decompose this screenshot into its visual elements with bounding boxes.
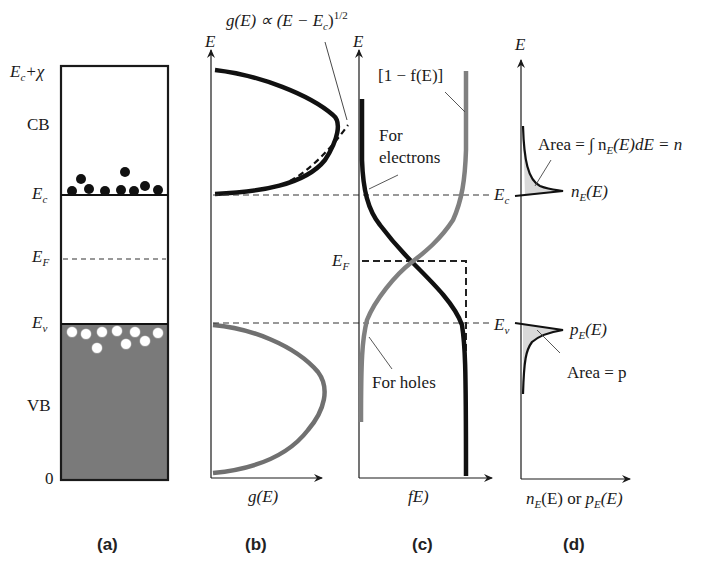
cb-dos-curve	[215, 70, 338, 194]
ef-label: EF	[32, 248, 49, 268]
ev-label-c: Ev	[494, 316, 509, 336]
band-diagram-panel	[61, 66, 168, 480]
dos-formula-annotation: g(E) ∝ (E − Ec)1/2	[226, 10, 348, 32]
one-minus-f-label: [1 − f(E)]	[378, 67, 443, 84]
caption-c: (c)	[412, 535, 433, 555]
caption-b: (b)	[245, 535, 267, 555]
valence-band-fill	[61, 324, 168, 480]
cb-label: CB	[27, 116, 50, 133]
ec-plus-chi-label: Ec+χ	[10, 63, 44, 83]
ev-label: Ev	[32, 314, 47, 334]
ec-label-c: Ec	[494, 186, 509, 206]
holes-label: For holes	[372, 374, 436, 391]
ne-label: nE(E)	[571, 183, 608, 203]
annotation-pointer	[325, 42, 347, 120]
caption-a: (a)	[97, 535, 118, 555]
one-minus-f-holes-curve	[361, 71, 466, 422]
zero-energy-label: 0	[45, 470, 54, 487]
zero-kelvin-step	[362, 261, 466, 476]
electrons	[67, 167, 163, 196]
one-minus-f-pointer	[445, 92, 465, 112]
density-of-states-panel	[211, 42, 348, 478]
fermi-dirac-panel	[359, 50, 492, 478]
ec-label: Ec	[32, 185, 47, 205]
ef-label-c: EF	[332, 252, 349, 272]
pe-label: pE(E)	[570, 321, 607, 341]
electrons-label-line1: For	[379, 127, 403, 144]
area-p-label: Area = p	[567, 364, 627, 381]
area-n-label: Area = ∫ nE(E)dE = n	[538, 136, 682, 156]
energy-axis-label-c: E	[353, 33, 363, 50]
carrier-concentration-panel	[515, 60, 630, 479]
dos-axis-label: g(E)	[248, 488, 278, 505]
fermi-axis-label: fE)	[408, 488, 429, 505]
electrons-pointer	[369, 175, 398, 189]
n-area-pointer	[535, 160, 551, 186]
electrons-label-line2: electrons	[379, 149, 440, 166]
vb-label: VB	[27, 397, 51, 414]
holes-pointer	[369, 337, 392, 369]
caption-d: (d)	[563, 535, 585, 555]
energy-axis-label-b: E	[205, 33, 215, 50]
vb-dos-curve	[213, 325, 325, 473]
energy-axis-label-d: E	[515, 36, 525, 53]
carrier-axis-label: nE(E) or pE(E)	[526, 490, 623, 510]
